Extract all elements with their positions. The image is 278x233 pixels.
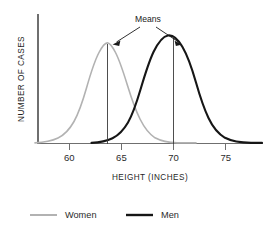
means-arrow-right-line xyxy=(156,27,179,42)
x-tick-label-3: 75 xyxy=(221,152,232,163)
means-arrow-left-line xyxy=(117,27,141,42)
legend-label-women: Women xyxy=(65,210,97,220)
means-annotation-label: Means xyxy=(135,14,161,24)
x-tick-label-1: 65 xyxy=(116,152,127,163)
x-axis-tick-labels: 60 65 70 75 xyxy=(64,152,231,163)
legend-item-women: Women xyxy=(30,210,97,220)
x-tick-label-2: 70 xyxy=(168,152,179,163)
chart-legend: Women Men xyxy=(30,210,179,220)
legend-label-men: Men xyxy=(161,210,179,220)
chart-figure: 60 65 70 75 Means HEIGHT (INCHES) NUMBER… xyxy=(0,0,278,233)
y-axis-title: NUMBER OF CASES xyxy=(17,36,26,122)
x-axis-ticks xyxy=(69,144,226,151)
x-tick-label-0: 60 xyxy=(64,152,75,163)
curve-men xyxy=(92,35,263,142)
x-axis-title: HEIGHT (INCHES) xyxy=(112,173,188,182)
means-annotation: Means xyxy=(113,14,183,46)
means-arrow-left-head xyxy=(113,41,121,46)
legend-item-men: Men xyxy=(126,210,179,220)
curve-women xyxy=(35,43,196,143)
distribution-chart: 60 65 70 75 Means HEIGHT (INCHES) NUMBER… xyxy=(0,0,278,233)
